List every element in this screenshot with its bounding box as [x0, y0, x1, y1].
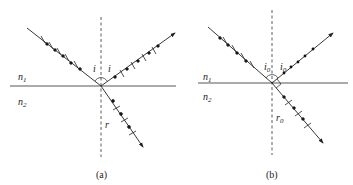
reflected-angle-label: i0 [280, 61, 287, 74]
right-angle-mark [276, 79, 281, 88]
refracted-ray [101, 86, 143, 147]
reflected-polarization-marks [114, 45, 160, 79]
polarization-diagram: n1 n2 i i r (a) [0, 0, 353, 185]
medium-n1-label: n1 [203, 71, 212, 84]
incident-angle-label: i [93, 63, 96, 74]
refracted-angle-label: r0 [276, 112, 284, 125]
reflected-angle-label: i [108, 63, 111, 74]
medium-n2-label: n2 [18, 96, 27, 109]
incident-angle-label: i0 [264, 61, 271, 74]
panel-b: n1 n2 i0 i0 r0 (b) [198, 10, 348, 181]
medium-n1-label: n1 [18, 71, 27, 84]
refracted-angle-label: r [105, 119, 109, 130]
reflected-ray [272, 33, 333, 83]
caption-a: (a) [96, 169, 107, 181]
panel-a: n1 n2 i i r (a) [10, 17, 176, 181]
incident-polarization-marks [41, 36, 81, 70]
medium-n2-label: n2 [203, 91, 212, 104]
caption-b: (b) [266, 169, 278, 181]
incident-ray [208, 27, 272, 83]
refracted-polarization-marks [112, 100, 136, 135]
